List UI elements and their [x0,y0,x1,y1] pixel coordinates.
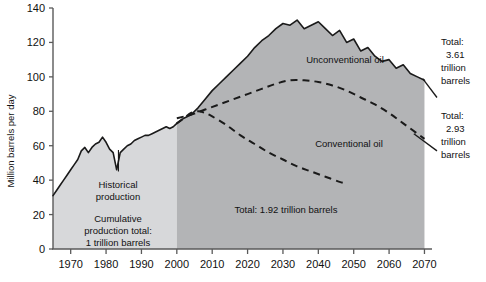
oil-production-chart: Million barrels per day 0204060801001201… [0,0,486,282]
y-tick-label: 80 [33,105,45,117]
y-axis-title: Million barrels per day [5,94,16,187]
y-tick-label: 0 [39,243,45,255]
y-tick-label: 60 [33,140,45,152]
x-tick-label: 1970 [58,258,82,270]
annotation-unconventional-oil: Unconventional oil [306,54,384,65]
x-axis-ticks [71,249,425,254]
annotation-total-3-61-line1: Total: [441,36,464,47]
annotation-cumulative-line2: production total: [84,225,152,236]
y-axis-tick-labels: 020406080100120140 [27,2,45,255]
x-tick-label: 2040 [306,258,330,270]
x-tick-label: 1990 [129,258,153,270]
annotation-total-3-61-line4: barrels [441,75,470,86]
annotation-total-2-93-line4: barrels [441,149,470,160]
annotation-total-conventional: Total: 1.92 trillion barrels [235,204,338,215]
x-tick-label: 2020 [235,258,259,270]
y-tick-label: 100 [27,71,45,83]
x-tick-label: 2060 [377,258,401,270]
x-axis-tick-labels: 1970198019902000201020202030204020502060… [58,258,436,270]
annotation-total-3-61-line3: trillion [441,62,466,73]
annotation-historical-production-line1: Historical [98,179,137,190]
y-tick-label: 140 [27,2,45,14]
annotation-cumulative-line3: 1 trillion barrels [86,237,151,248]
y-tick-label: 40 [33,174,45,186]
annotation-total-3-61-line2: 3.61 [446,49,465,60]
chart-canvas: Million barrels per day 0204060801001201… [0,0,486,282]
annotation-conventional-oil: Conventional oil [315,138,383,149]
y-tick-label: 120 [27,36,45,48]
x-tick-label: 2050 [341,258,365,270]
annotation-total-2-93-line1: Total: [441,110,464,121]
total-3-61-leader-line [423,79,437,98]
x-tick-label: 2000 [165,258,189,270]
y-tick-label: 20 [33,209,45,221]
annotation-total-2-93-line2: 2.93 [446,123,465,134]
annotation-historical-production-line2: production [96,191,140,202]
annotation-cumulative-line1: Cumulative [94,213,142,224]
annotation-total-2-93-line3: trillion [441,136,466,147]
x-tick-label: 1980 [94,258,118,270]
x-tick-label: 2070 [412,258,436,270]
x-tick-label: 2030 [271,258,295,270]
x-tick-label: 2010 [200,258,224,270]
